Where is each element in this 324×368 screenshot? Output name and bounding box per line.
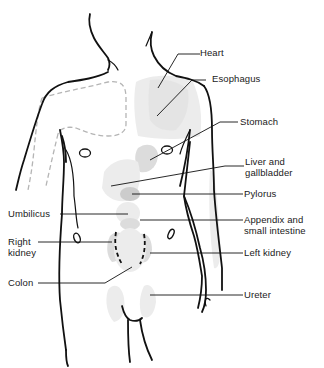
label-liver-gallbladder: Liver and gallbladder bbox=[245, 157, 293, 178]
label-right-kidney: Right kidney bbox=[8, 237, 36, 258]
label-liver-line1: Liver and bbox=[245, 157, 293, 168]
colon-zone bbox=[114, 228, 146, 272]
ureter-zone-right bbox=[140, 285, 156, 318]
label-appendix-small-intestine: Appendix and small intestine bbox=[244, 215, 306, 236]
label-heart: Heart bbox=[200, 48, 224, 59]
label-right-kidney-line2: kidney bbox=[8, 248, 36, 259]
label-stomach: Stomach bbox=[240, 117, 278, 128]
label-appendix-line1: Appendix and bbox=[244, 215, 306, 226]
label-right-kidney-line1: Right bbox=[8, 237, 36, 248]
label-appendix-line2: small intestine bbox=[244, 226, 306, 237]
lateral-strip bbox=[209, 170, 220, 268]
torso-diagram bbox=[0, 0, 324, 368]
left-hip-mark bbox=[167, 228, 176, 239]
label-left-kidney: Left kidney bbox=[244, 248, 291, 259]
label-colon: Colon bbox=[8, 278, 33, 289]
pain-zones bbox=[102, 76, 221, 322]
label-esophagus: Esophagus bbox=[212, 74, 260, 85]
ureter-zone-left bbox=[106, 286, 124, 322]
right-nipple bbox=[80, 149, 91, 157]
label-liver-line2: gallbladder bbox=[245, 168, 293, 179]
label-pylorus: Pylorus bbox=[244, 189, 276, 200]
colon-leader bbox=[38, 267, 132, 283]
label-umbilicus: Umbilicus bbox=[8, 209, 50, 220]
label-ureter: Ureter bbox=[244, 290, 271, 301]
